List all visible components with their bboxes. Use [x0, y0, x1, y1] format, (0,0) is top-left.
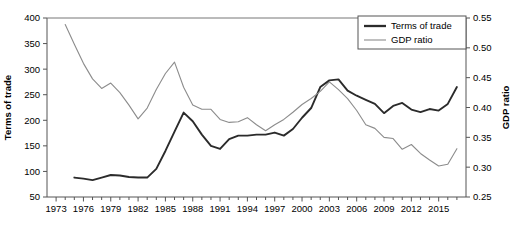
right-axis-tick-label: 0.25: [473, 191, 492, 202]
x-axis-tick-label: 1973: [46, 203, 67, 214]
left-axis-tick-label: 300: [24, 64, 40, 75]
x-axis-tick-label: 2015: [428, 203, 449, 214]
dual-axis-line-chart: 501001502002503003504000.250.300.350.400…: [0, 0, 518, 233]
right-axis-title: GDP ratio: [500, 85, 511, 129]
right-axis-tick-label: 0.35: [473, 132, 492, 143]
x-axis-tick-label: 2003: [319, 203, 340, 214]
left-axis-tick-label: 250: [24, 89, 40, 100]
x-axis-tick-label: 2012: [401, 203, 422, 214]
right-axis-tick-label: 0.50: [473, 42, 492, 53]
x-axis-tick-label: 1997: [264, 203, 285, 214]
legend-label-terms-of-trade: Terms of trade: [391, 20, 452, 31]
legend-label-gdp-ratio: GDP ratio: [391, 34, 433, 45]
x-axis-tick-label: 1979: [100, 203, 121, 214]
x-axis-tick-label: 1985: [155, 203, 176, 214]
x-axis-tick-label: 1988: [182, 203, 203, 214]
x-axis-tick-label: 1982: [128, 203, 149, 214]
x-axis-tick-label: 2006: [346, 203, 367, 214]
left-axis-tick-label: 200: [24, 115, 40, 126]
left-axis-tick-label: 100: [24, 166, 40, 177]
left-axis-tick-label: 400: [24, 12, 40, 23]
left-axis-tick-label: 50: [29, 191, 40, 202]
right-axis-tick-label: 0.40: [473, 102, 492, 113]
right-axis-tick-label: 0.30: [473, 162, 492, 173]
left-axis-title: Terms of trade: [2, 75, 13, 140]
right-axis-tick-label: 0.55: [473, 12, 492, 23]
x-axis-tick-label: 1976: [73, 203, 94, 214]
x-axis-tick-label: 1991: [209, 203, 230, 214]
series-line-terms-of-trade: [74, 79, 457, 180]
x-axis-tick-label: 1994: [237, 203, 258, 214]
x-axis-tick-label: 2000: [291, 203, 312, 214]
x-axis-tick-label: 2009: [373, 203, 394, 214]
chart-container: 501001502002503003504000.250.300.350.400…: [0, 0, 518, 233]
left-axis-tick-label: 150: [24, 140, 40, 151]
right-axis-tick-label: 0.45: [473, 72, 492, 83]
left-axis-tick-label: 350: [24, 38, 40, 49]
